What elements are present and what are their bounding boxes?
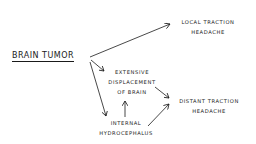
arrow-displacement-to-distant	[155, 87, 169, 98]
node-line: OF BRAIN	[108, 87, 155, 97]
arrow-tumor-to-displacement	[91, 60, 104, 71]
arrow-tumor-to-local	[90, 24, 170, 57]
node-distant-traction-headache: DISTANT TRACTION HEADACHE	[179, 96, 239, 116]
node-line: LOCAL TRACTION	[181, 17, 234, 27]
node-local-traction-headache: LOCAL TRACTION HEADACHE	[181, 17, 234, 37]
root-node-brain-tumor: BRAIN TUMOR	[12, 50, 74, 62]
node-line: EXTENSIVE	[108, 67, 155, 77]
arrow-tumor-to-hydro	[90, 62, 106, 116]
node-line: HEADACHE	[179, 106, 239, 116]
node-line: HYDROCEPHALUS	[99, 128, 153, 138]
node-line: HEADACHE	[181, 27, 234, 37]
node-line: DISTANT TRACTION	[179, 96, 239, 106]
node-internal-hydrocephalus: INTERNAL HYDROCEPHALUS	[99, 118, 153, 138]
node-line: INTERNAL	[99, 118, 153, 128]
node-line: DISPLACEMENT	[108, 77, 155, 87]
node-extensive-displacement: EXTENSIVE DISPLACEMENT OF BRAIN	[108, 67, 155, 97]
